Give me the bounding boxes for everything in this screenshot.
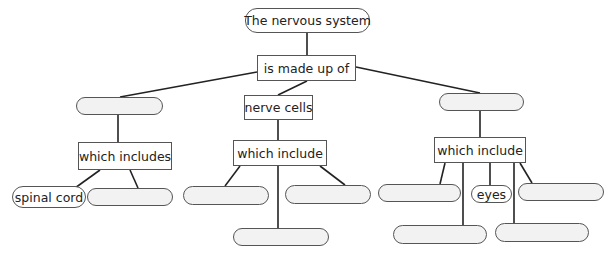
eyes-node: eyes (471, 185, 512, 203)
connector-lines (0, 0, 607, 255)
right-blank-far-node[interactable] (518, 183, 604, 201)
made-up-of-node: is made up of (257, 55, 356, 81)
right-which-include-node: which include (434, 137, 526, 163)
nerve-cells-node: nerve cells (244, 95, 313, 120)
left-blank-node[interactable] (76, 97, 163, 115)
mid-blank-right-node[interactable] (285, 185, 371, 204)
spinal-cord-node: spinal cord (12, 186, 86, 208)
right-blank-bottom-left-node[interactable] (393, 225, 487, 244)
left-blank-2-node[interactable] (87, 188, 173, 206)
right-blank-node[interactable] (439, 93, 524, 111)
mid-which-include-node: which include (233, 140, 327, 166)
mid-blank-left-node[interactable] (183, 186, 269, 205)
right-blank-left-node[interactable] (378, 184, 461, 202)
root-node: The nervous system (245, 8, 370, 33)
right-blank-bottom-right-node[interactable] (495, 223, 589, 242)
mid-blank-bottom-node[interactable] (233, 228, 329, 246)
left-which-includes-node: which includes (78, 142, 172, 170)
